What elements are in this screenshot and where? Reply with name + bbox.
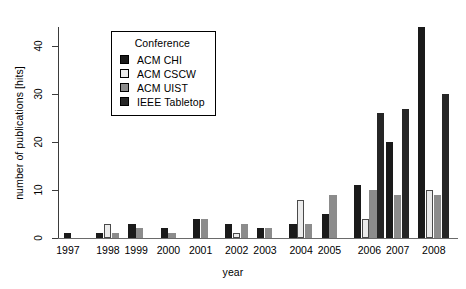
bar	[297, 200, 304, 238]
bar	[201, 219, 208, 238]
bar	[394, 195, 401, 238]
bar	[225, 224, 232, 238]
y-axis-line	[58, 27, 59, 239]
bar	[377, 113, 384, 238]
bar-chart: number of publications [hits] 010203040 …	[0, 0, 466, 289]
legend-entry-label: IEEE Tabletop	[137, 96, 205, 108]
bar	[233, 233, 240, 238]
bar	[64, 233, 71, 238]
bar-group	[322, 22, 353, 238]
bar	[289, 224, 296, 238]
legend-swatch-icon	[120, 55, 129, 64]
legend-entry: ACM CSCW	[120, 67, 205, 80]
legend-swatch-icon	[120, 69, 129, 78]
legend-entry: ACM CHI	[120, 53, 205, 66]
bar-group	[418, 22, 449, 238]
bar	[418, 27, 425, 238]
bar	[265, 228, 272, 238]
x-axis-line	[58, 238, 458, 239]
y-axis-tick	[52, 94, 58, 95]
x-axis-title: year	[0, 266, 466, 278]
bar-group	[289, 22, 320, 238]
bar	[354, 185, 361, 238]
bar-group	[354, 22, 385, 238]
bar	[322, 214, 329, 238]
legend-entry: ACM UIST	[120, 81, 205, 94]
bar	[362, 219, 369, 238]
x-axis-tick-label: 2005	[307, 244, 351, 256]
bar	[128, 224, 135, 238]
bar	[329, 195, 336, 238]
y-axis-tick-label: 30	[32, 87, 46, 101]
bar	[442, 94, 449, 238]
y-axis-tick-label: 20	[32, 135, 46, 149]
bar	[434, 195, 441, 238]
y-axis-tick	[52, 46, 58, 47]
bar-group	[257, 22, 288, 238]
legend-swatch-icon	[120, 83, 129, 92]
bar	[426, 190, 433, 238]
legend-swatch-icon	[120, 97, 129, 106]
legend: Conference ACM CHIACM CSCWACM UISTIEEE T…	[111, 31, 216, 116]
bar-group	[64, 22, 95, 238]
legend-entry-label: ACM UIST	[137, 82, 188, 94]
legend-entry-label: ACM CHI	[137, 54, 182, 66]
y-axis-tick-label: 10	[32, 183, 46, 197]
bar	[161, 228, 168, 238]
bar	[136, 228, 143, 238]
bar-group	[386, 22, 417, 238]
bar	[193, 219, 200, 238]
x-axis-tick-label: 1997	[46, 244, 90, 256]
y-axis-tick	[52, 238, 58, 239]
y-axis-tick-label: 0	[32, 231, 46, 245]
bar-group	[225, 22, 256, 238]
legend-entry: IEEE Tabletop	[120, 95, 205, 108]
y-axis-title: number of publications [hits]	[12, 21, 26, 246]
y-axis-tick	[52, 142, 58, 143]
legend-entry-label: ACM CSCW	[137, 68, 196, 80]
y-axis-tick	[52, 190, 58, 191]
bar	[386, 142, 393, 238]
bar	[369, 190, 376, 238]
bar	[241, 224, 248, 238]
bar	[104, 224, 111, 238]
legend-entries: ACM CHIACM CSCWACM UISTIEEE Tabletop	[120, 53, 205, 108]
x-axis-tick-label: 2008	[412, 244, 456, 256]
bar	[112, 233, 119, 238]
legend-title: Conference	[120, 37, 205, 49]
bar	[402, 109, 409, 238]
bar	[168, 233, 175, 238]
bar	[305, 224, 312, 238]
bar	[257, 228, 264, 238]
bar	[96, 233, 103, 238]
y-axis-tick-label: 40	[32, 39, 46, 53]
